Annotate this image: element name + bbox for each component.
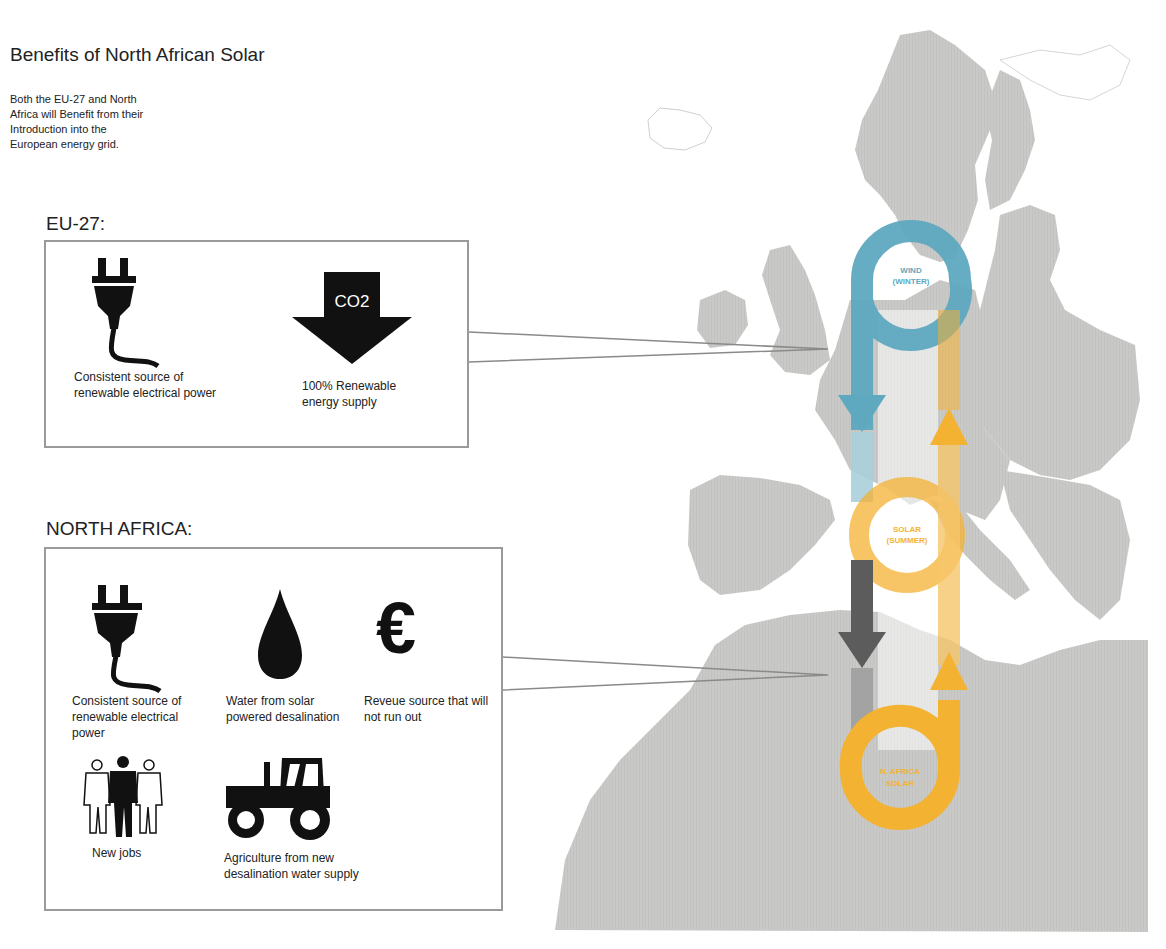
italy-balkans: [930, 500, 1030, 600]
solar-summer-ring: [859, 487, 955, 583]
na-caption-power: Consistent source of renewable electrica…: [72, 693, 212, 741]
eu27-caption-co2: 100% Renewable energy supply: [302, 378, 422, 410]
na-solar-label-1: N. AFRICA: [880, 767, 920, 776]
na-caption-jobs: New jobs: [92, 845, 182, 861]
na-connector-line: [503, 657, 828, 690]
eastern-europe: [970, 205, 1140, 480]
grey-arrow-head: [838, 632, 886, 668]
co2-down-arrow-icon: CO2: [292, 272, 422, 364]
eu-connector-line: [469, 332, 828, 362]
eu27-caption-power: Consistent source of renewable electrica…: [74, 369, 224, 401]
kola-outline: [1000, 45, 1130, 100]
page-title: Benefits of North African Solar: [10, 44, 265, 66]
na-solar-loop: [851, 700, 949, 819]
wind-label-2: (WINTER): [893, 277, 930, 286]
eu27-item-co2: CO2 100% Renewable energy supply: [292, 272, 422, 410]
na-item-agriculture: Agriculture from new desalination water …: [224, 756, 364, 882]
svg-text:CO2: CO2: [335, 292, 370, 311]
na-caption-revenue: Reveue source that will not run out: [364, 693, 499, 725]
north-africa-heading: NORTH AFRICA:: [46, 518, 192, 540]
balkans: [1000, 470, 1130, 620]
solar-up-shaft: [938, 445, 960, 665]
intro-text: Both the EU-27 and North Africa will Ben…: [10, 92, 150, 152]
na-caption-agriculture: Agriculture from new desalination water …: [224, 850, 364, 882]
ireland: [697, 290, 748, 348]
grey-tail: [851, 668, 873, 738]
na-item-revenue: € Reveue source that will not run out: [364, 583, 499, 725]
people-icon: [82, 755, 182, 839]
solar-up-arrow-head: [930, 408, 968, 445]
wind-tail: [851, 432, 873, 502]
water-drop-icon: [250, 583, 361, 693]
eu27-item-power: Consistent source of renewable electrica…: [74, 254, 224, 401]
wind-arrow-head: [838, 395, 886, 432]
tractor-icon: [224, 756, 364, 842]
grey-shaft: [851, 560, 873, 640]
solar-label-2: (SUMMER): [887, 536, 928, 545]
scandinavia: [855, 30, 995, 262]
flow-corridor: [878, 310, 938, 750]
na-item-jobs: New jobs: [82, 755, 182, 861]
na-caption-water: Water from solar powered desalination: [226, 693, 361, 725]
na-solar-arrow-head: [930, 652, 968, 690]
central-europe: [815, 280, 1010, 520]
finland: [985, 70, 1035, 210]
eu27-benefits-box: Consistent source of renewable electrica…: [44, 240, 469, 448]
iceland-outline: [648, 108, 712, 150]
wind-label-1: WIND: [900, 266, 922, 275]
wind-loop: [862, 231, 961, 430]
eu27-heading: EU-27:: [46, 213, 105, 235]
great-britain: [762, 245, 830, 375]
plug-icon: [90, 583, 212, 693]
solar-upper-shaft: [938, 310, 960, 410]
na-item-power: Consistent source of renewable electrica…: [72, 583, 212, 741]
solar-label-1: SOLAR: [893, 525, 921, 534]
iberia: [688, 475, 835, 595]
plug-icon: [90, 254, 224, 369]
na-solar-label-2: SOLAR: [886, 779, 914, 788]
north-africa-benefits-box: Consistent source of renewable electrica…: [44, 547, 503, 911]
north-africa: [555, 610, 1148, 932]
na-item-water: Water from solar powered desalination: [226, 583, 361, 725]
euro-icon: €: [376, 583, 499, 693]
